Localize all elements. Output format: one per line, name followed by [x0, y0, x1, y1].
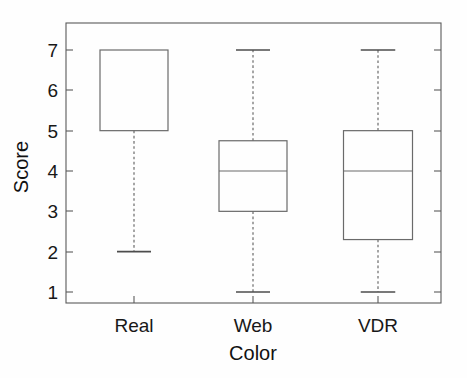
x-tick-label-real: Real: [114, 315, 153, 336]
y-tick-label-3: 3: [47, 201, 58, 222]
box-real: [100, 50, 168, 131]
x-tick-label-vdr: VDR: [358, 315, 398, 336]
box-group-real: [100, 50, 168, 252]
y-tick-label-2: 2: [47, 242, 58, 263]
y-tick-label-5: 5: [47, 121, 58, 142]
y-tick-label-7: 7: [47, 40, 58, 61]
y-axis-ticks-right: [434, 50, 441, 292]
y-axis-ticks: [66, 50, 73, 292]
box-group-web: [219, 50, 287, 292]
y-tick-label-6: 6: [47, 80, 58, 101]
y-tick-label-4: 4: [47, 161, 58, 182]
plot-area: 7 6 5 4 3 2 1 Score Real Web VDR Color: [0, 0, 467, 378]
boxplot-boxes: [100, 50, 413, 292]
x-axis-ticks: [134, 296, 378, 303]
x-axis-title: Color: [229, 342, 277, 364]
plot-frame: [66, 23, 441, 303]
x-tick-label-web: Web: [234, 315, 273, 336]
box-web: [219, 141, 287, 212]
boxplot-figure: 7 6 5 4 3 2 1 Score Real Web VDR Color: [0, 0, 467, 378]
box-vdr: [344, 131, 413, 240]
y-tick-label-1: 1: [47, 282, 58, 303]
box-group-vdr: [344, 50, 413, 292]
y-axis-title: Score: [10, 141, 32, 193]
